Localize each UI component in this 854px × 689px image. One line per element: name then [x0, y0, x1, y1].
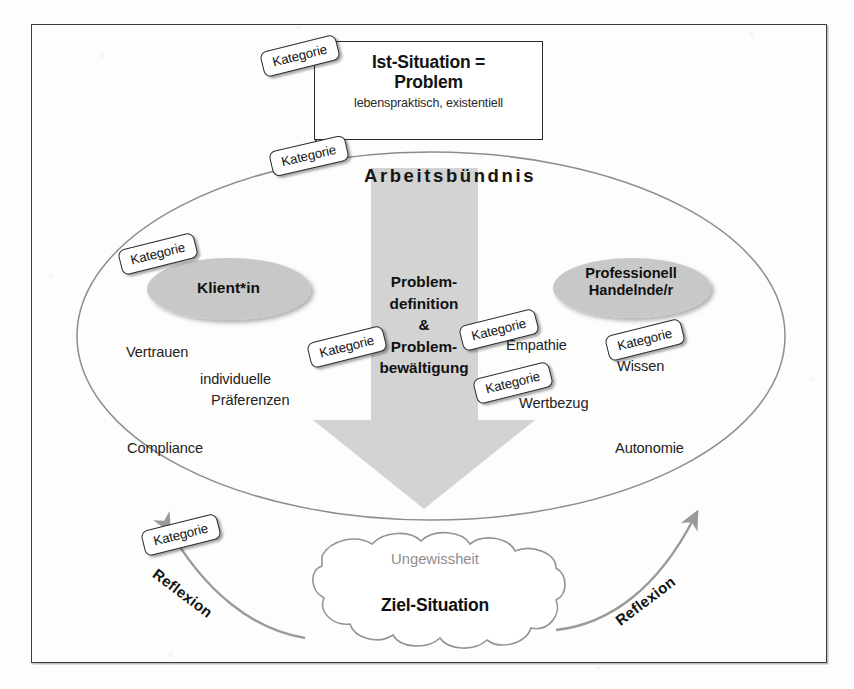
uncertainty-label: Ungewissheit — [355, 551, 515, 567]
professional-label-line2: Handelnde/r — [589, 282, 673, 298]
problem-box-line2: Problem — [394, 72, 463, 92]
arrow-line1: Problem- — [391, 273, 457, 290]
client-attribute-vertrauen: Vertrauen — [126, 344, 188, 360]
professional-attribute-wissen: Wissen — [617, 358, 664, 374]
arrow-line4: Problem- — [391, 338, 457, 355]
professional-attribute-autonomie: Autonomie — [615, 440, 684, 456]
diagram-canvas: Ist-Situation = Problem lebenspraktisch,… — [0, 0, 854, 689]
client-attribute-praeferenzen: Präferenzen — [211, 392, 289, 408]
arrow-line5: bewältigung — [379, 359, 468, 376]
client-attribute-individuelle: individuelle — [200, 371, 271, 387]
problem-box: Ist-Situation = Problem lebenspraktisch,… — [314, 41, 543, 140]
problem-box-subtitle: lebenspraktisch, existentiell — [315, 96, 542, 111]
client-label: Klient*in — [147, 279, 310, 296]
arbeitsbuendnis-heading: Arbeitsbündnis — [330, 165, 570, 187]
problem-box-title: Ist-Situation = Problem — [315, 52, 542, 92]
professional-attribute-empathie: Empathie — [506, 337, 567, 353]
professional-attribute-wertbezug: Wertbezug — [519, 395, 588, 411]
client-attribute-compliance: Compliance — [127, 440, 203, 456]
professional-label-line1: Professionell — [585, 265, 677, 281]
problem-box-line1: Ist-Situation = — [372, 52, 485, 72]
goal-situation-label: Ziel-Situation — [345, 595, 525, 616]
professional-label: Professionell Handelnde/r — [551, 265, 711, 299]
arrow-line3: & — [418, 316, 429, 333]
arrow-line2: definition — [390, 295, 459, 312]
